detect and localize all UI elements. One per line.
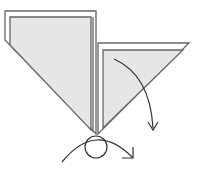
left-flap (5, 11, 96, 134)
origami-diagram (0, 0, 197, 175)
pivot-circle-icon (85, 136, 107, 158)
left-flap-inner (10, 17, 91, 130)
right-flap-inner (103, 50, 183, 128)
rotate-arrow-icon (62, 140, 133, 162)
